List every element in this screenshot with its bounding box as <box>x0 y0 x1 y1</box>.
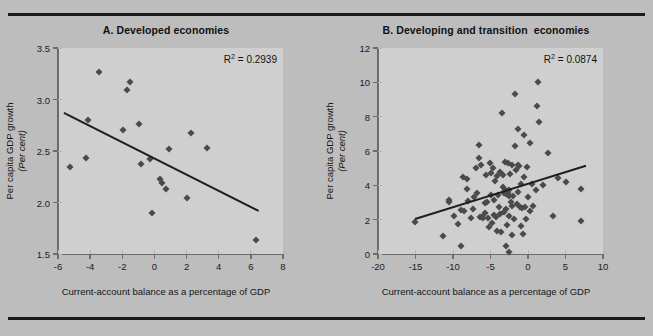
panel-a-x-tick <box>89 254 91 259</box>
panel-b-y-tick-label: 0 <box>365 249 370 260</box>
panel-a-x-tick <box>282 254 284 259</box>
panel-b-r-squared-value: 0.0874 <box>566 54 597 65</box>
panel-b-x-tick <box>452 254 454 259</box>
panel-b-x-tick <box>415 254 417 259</box>
panel-b-x-tick <box>490 254 492 259</box>
panel-b-y-tick-label: 8 <box>365 111 370 122</box>
panel-a-r-squared-value: 0.2939 <box>246 54 277 65</box>
panel-a-x-tick-inner <box>122 250 123 254</box>
panel-a-x-tick-label: 0 <box>152 261 157 272</box>
panel-b-y-axis-title: Per capita GDP growth (Per cent) <box>324 103 348 200</box>
top-rule <box>8 13 645 16</box>
panel-a-x-axis-title: Current-account balance as a percentage … <box>10 286 322 297</box>
panel-a-y-axis-unit: (Per cent) <box>16 103 28 200</box>
panel-b-x-tick-label: -10 <box>446 261 460 272</box>
panel-a-x-tick-inner <box>154 250 155 254</box>
panel-b-y-tick-inner <box>378 185 382 186</box>
panel-a-x-tick-label: 6 <box>248 261 253 272</box>
panel-b-y-tick-inner <box>378 116 382 117</box>
panel-a-x-tick-inner <box>283 250 284 254</box>
panel-b-x-tick-label: -20 <box>371 261 385 272</box>
panel-b-x-tick <box>565 254 567 259</box>
panel-a-x-tick-inner <box>250 250 251 254</box>
panel-a-y-tick-label: 2.0 <box>37 197 50 208</box>
panel-b-x-tick <box>602 254 604 259</box>
panel-a-y-axis-title: Per capita GDP growth (Per cent) <box>4 103 28 200</box>
panel-b-y-tick-inner <box>378 48 382 49</box>
panel-a-y-axis-title-text: Per capita GDP growth <box>4 103 15 200</box>
panel-a-x-tick <box>250 254 252 259</box>
figure-container: A. Developed economies Per capita GDP gr… <box>0 0 653 336</box>
panel-b-y-tick-label: 10 <box>359 77 370 88</box>
panel-a-y-tick-inner <box>58 99 62 100</box>
panel-a-x-tick <box>218 254 220 259</box>
panel-a-x-tick <box>154 254 156 259</box>
panel-b-y-tick-label: 2 <box>365 214 370 225</box>
panel-b-x-tick-inner <box>603 250 604 254</box>
panel-a-x-tick-label: -4 <box>86 261 94 272</box>
panel-b-x-tick-label: 0 <box>525 261 530 272</box>
panel-a-y-tick-label: 1.5 <box>37 249 50 260</box>
panel-b-x-tick-inner <box>378 250 379 254</box>
panel-b-plot-area: R2 = 0.0874 024681012-20-15-10-50510 <box>378 48 603 254</box>
panel-b-y-axis-unit: (Per cent) <box>336 103 348 200</box>
panel-a-x-tick-label: 4 <box>216 261 221 272</box>
panel-a-title: A. Developed economies <box>10 24 322 36</box>
panel-b-x-tick-label: -15 <box>409 261 423 272</box>
panel-a-y-tick-inner <box>58 202 62 203</box>
panel-a-y-tick-inner <box>58 48 62 49</box>
panel-b-x-tick-inner <box>565 250 566 254</box>
panel-b-x-tick-inner <box>415 250 416 254</box>
panel-b-x-tick <box>377 254 379 259</box>
panel-b-y-tick-inner <box>378 219 382 220</box>
panel-b-x-tick-inner <box>490 250 491 254</box>
panel-a-y-tick-inner <box>58 151 62 152</box>
panel-a-x-tick <box>186 254 188 259</box>
panel-a-y-tick-label: 3.5 <box>37 43 50 54</box>
panel-a-x-tick <box>122 254 124 259</box>
panel-a-x-tick-inner <box>90 250 91 254</box>
panel-a-x-tick-inner <box>218 250 219 254</box>
panel-b-y-tick-label: 12 <box>359 43 370 54</box>
panel-a-x-tick-label: -2 <box>118 261 126 272</box>
panel-b-y-tick-inner <box>378 151 382 152</box>
panel-b-y-tick-label: 4 <box>365 180 370 191</box>
panel-b-title: B. Developing and transition economies <box>330 24 642 36</box>
panel-b-x-tick-inner <box>528 250 529 254</box>
chart-panel-b: B. Developing and transition economies P… <box>330 18 642 314</box>
panel-b-x-axis-title: Current-account balance as a percentage … <box>330 286 642 297</box>
panel-a-y-tick-label: 2.5 <box>37 146 50 157</box>
panel-b-x-tick-inner <box>453 250 454 254</box>
panel-b-x-tick-label: 10 <box>598 261 609 272</box>
panel-b-x-tick <box>527 254 529 259</box>
panel-a-r-squared-annotation: R2 = 0.2939 <box>224 53 277 65</box>
panel-a-y-tick-label: 3.0 <box>37 94 50 105</box>
panel-a-x-tick-inner <box>186 250 187 254</box>
panel-a-x-tick-label: 8 <box>280 261 285 272</box>
panel-a-x-tick-label: -6 <box>54 261 62 272</box>
panel-b-y-tick-inner <box>378 82 382 83</box>
panel-b-y-axis-title-text: Per capita GDP growth <box>324 103 335 200</box>
panel-b-x-tick-label: -5 <box>486 261 494 272</box>
panel-b-x-tick-label: 5 <box>563 261 568 272</box>
chart-panel-a: A. Developed economies Per capita GDP gr… <box>10 18 322 314</box>
panel-b-y-tick-label: 6 <box>365 146 370 157</box>
panel-a-x-tick-inner <box>58 250 59 254</box>
panel-a-x-tick <box>57 254 59 259</box>
panel-b-r-squared-annotation: R2 = 0.0874 <box>544 53 597 65</box>
bottom-rule <box>8 317 645 320</box>
panel-a-plot-area: R2 = 0.2939 1.52.02.53.03.5-6-4-202468 <box>58 48 283 254</box>
panel-a-x-tick-label: 2 <box>184 261 189 272</box>
